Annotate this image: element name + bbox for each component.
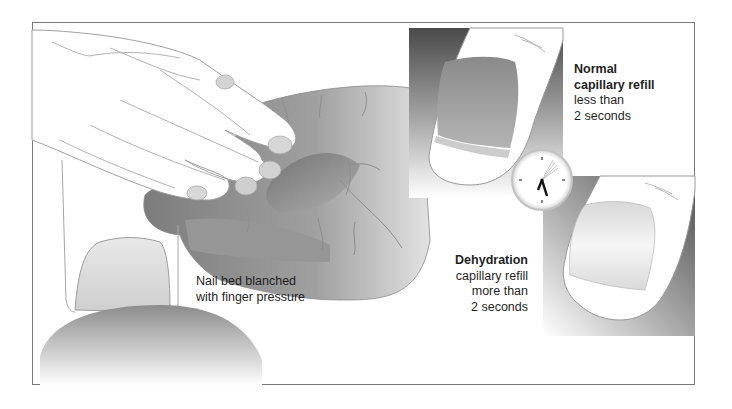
blanch-caption-line2: with finger pressure — [196, 290, 305, 306]
normal-heading-line1: Normal — [574, 62, 655, 78]
dehydration-detail-line1: capillary refill — [440, 269, 528, 285]
dehydration-heading: Dehydration — [440, 253, 528, 269]
blanch-caption-line1: Nail bed blanched — [196, 274, 305, 290]
normal-heading-line2: capillary refill — [574, 78, 655, 94]
blanch-caption: Nail bed blanched with finger pressure — [196, 274, 305, 305]
dehydration-detail-line3: 2 seconds — [440, 300, 528, 316]
normal-refill-label: Normal capillary refill less than 2 seco… — [574, 62, 655, 124]
normal-detail-line2: 2 seconds — [574, 109, 655, 125]
dehydration-detail-line2: more than — [440, 284, 528, 300]
adult-hand-illustration — [32, 30, 296, 200]
dehydration-refill-label: Dehydration capillary refill more than 2… — [440, 253, 528, 315]
normal-detail-line1: less than — [574, 93, 655, 109]
clock-icon — [512, 150, 572, 210]
dehydrated-nail-panel — [543, 176, 695, 336]
